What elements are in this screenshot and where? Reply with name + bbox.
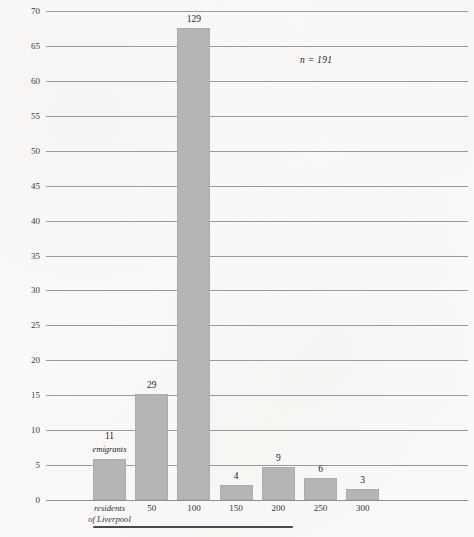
bar [135, 394, 168, 500]
y-axis-tick-label: 15 [31, 390, 40, 400]
y-axis-tick-label: 60 [31, 76, 40, 86]
gridline [46, 151, 468, 152]
plot-area: 0510152025303540455055606570 11emigrants… [46, 11, 468, 500]
axis-baseline [46, 500, 468, 501]
x-axis-tick-label: 250 [314, 503, 328, 514]
x-tick-line-1: 150 [229, 503, 243, 514]
gridline [46, 256, 468, 257]
x-axis-tick-label: 100 [187, 503, 201, 514]
y-axis-tick-label: 35 [31, 251, 40, 261]
y-axis-tick-label: 40 [31, 216, 40, 226]
x-axis-tick-label: 300 [356, 503, 370, 514]
x-tick-line-1: 50 [147, 503, 156, 514]
y-axis-tick-label: 65 [31, 41, 40, 51]
chart-page: Percent of emigrants leaving from Liverp… [0, 0, 474, 537]
bar [304, 478, 337, 500]
bar-value-label: 29 [147, 380, 157, 390]
bar-value-label: 9 [276, 453, 281, 463]
gridline [46, 116, 468, 117]
x-axis-tick-label: 200 [272, 503, 286, 514]
bar [220, 485, 253, 500]
x-tick-line-1: 200 [272, 503, 286, 514]
bar-value-label: 4 [234, 471, 239, 481]
x-tick-line-2: of Liverpool [88, 514, 131, 525]
x-tick-line-1: 100 [187, 503, 201, 514]
bar-value-label: 11 [105, 431, 114, 441]
y-axis-tick-label: 0 [36, 495, 41, 505]
y-axis-tick-label: 20 [31, 355, 40, 365]
bar-value-label: 129 [187, 14, 201, 24]
gridline [46, 11, 468, 12]
x-axis-tick-label: 150 [229, 503, 243, 514]
gridline [46, 395, 468, 396]
y-axis-tick-label: 10 [31, 425, 40, 435]
bar [346, 489, 379, 500]
gridline [46, 325, 468, 326]
gridline [46, 360, 468, 361]
gridline [46, 46, 468, 47]
y-axis-tick-label: 50 [31, 146, 40, 156]
y-axis-tick-label: 5 [36, 460, 41, 470]
gridline [46, 221, 468, 222]
bar-value-label: 3 [360, 475, 365, 485]
x-axis-bracket-line [93, 526, 293, 528]
y-axis-tick-label: 70 [31, 6, 40, 16]
x-axis-tick-label: 50 [147, 503, 156, 514]
gridline [46, 290, 468, 291]
x-tick-line-1: 250 [314, 503, 328, 514]
bar-sub-label: emigrants [93, 444, 127, 454]
x-tick-line-1: 300 [356, 503, 370, 514]
y-axis-tick-label: 55 [31, 111, 40, 121]
y-axis-tick-label: 25 [31, 320, 40, 330]
x-tick-line-1: residents [88, 503, 131, 514]
bar [262, 467, 295, 500]
bar [177, 28, 210, 500]
bar-value-label: 6 [318, 464, 323, 474]
bar [93, 459, 126, 500]
x-axis-tick-label: residentsof Liverpool [88, 503, 131, 524]
y-axis-tick-label: 45 [31, 181, 40, 191]
y-axis-tick-label: 30 [31, 285, 40, 295]
gridline [46, 186, 468, 187]
gridline [46, 81, 468, 82]
